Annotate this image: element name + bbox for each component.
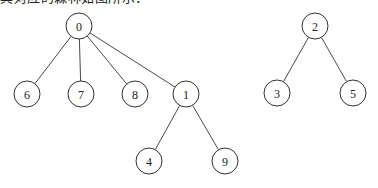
node-label: 6 [24, 88, 30, 102]
edge-1-4 [155, 105, 179, 149]
node-label: 0 [76, 20, 82, 34]
tree-node-4: 4 [136, 148, 162, 174]
tree-node-0: 0 [66, 13, 92, 39]
edge-1-9 [193, 105, 219, 150]
node-label: 2 [312, 20, 318, 34]
node-label: 5 [350, 87, 356, 101]
tree-node-8: 8 [122, 81, 148, 107]
tree-node-1: 1 [173, 81, 199, 107]
tree-node-9: 9 [212, 148, 238, 174]
edge-0-7 [79, 39, 80, 81]
edge-2-5 [321, 37, 346, 81]
node-label: 4 [146, 155, 152, 169]
forest-diagram: 0678149235 [0, 0, 378, 188]
nodes-layer: 0678149235 [14, 13, 366, 174]
edge-0-6 [35, 36, 71, 83]
node-label: 1 [183, 88, 189, 102]
tree-node-2: 2 [302, 13, 328, 39]
edge-2-3 [283, 37, 308, 81]
edge-0-1 [90, 33, 175, 87]
tree-node-3: 3 [264, 80, 290, 106]
edge-0-8 [87, 36, 126, 84]
tree-node-5: 5 [340, 80, 366, 106]
node-label: 8 [132, 88, 138, 102]
tree-node-7: 7 [68, 81, 94, 107]
node-label: 3 [274, 87, 280, 101]
tree-node-6: 6 [14, 81, 40, 107]
node-label: 9 [222, 155, 228, 169]
node-label: 7 [78, 88, 84, 102]
